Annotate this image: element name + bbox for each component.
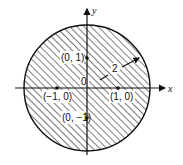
point-neg1-0	[55, 86, 59, 90]
radius-label: 2	[112, 63, 118, 74]
y-axis-label: y	[91, 5, 97, 16]
point-label-0-neg1: (0, −1)	[62, 112, 91, 123]
origin-label: 0	[81, 76, 87, 87]
x-axis-label: x	[167, 83, 173, 94]
disk-diagram: x y 2 0 (0, 1) (−1, 0) (1, 0) (0, −1)	[0, 0, 183, 165]
point-0-1	[85, 56, 89, 60]
point-1-0	[116, 86, 120, 90]
point-label-1-0: (1, 0)	[110, 91, 133, 102]
point-label-0-1: (0, 1)	[61, 52, 84, 63]
point-label-neg1-0: (−1, 0)	[43, 91, 72, 102]
